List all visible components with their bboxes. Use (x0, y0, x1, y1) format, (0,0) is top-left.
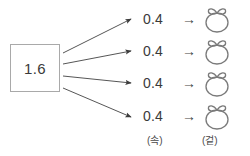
right-arrow-icon: → (177, 109, 201, 123)
caption-inner: (속) (147, 132, 163, 147)
part-row: 0.4 → (143, 3, 243, 35)
tangerine-icon (201, 4, 233, 34)
caption-outer: (겉) (202, 132, 218, 147)
distribution-arrow-2 (63, 51, 131, 64)
part-row: 0.4 → (143, 35, 243, 67)
part-value: 0.4 (143, 108, 177, 124)
source-quantity-value: 1.6 (24, 60, 46, 77)
distribution-arrow-3 (63, 76, 131, 83)
part-value: 0.4 (143, 75, 177, 91)
part-row: 0.4 → (143, 67, 243, 99)
distribution-arrow-4 (63, 88, 131, 117)
right-arrow-icon: → (177, 44, 201, 58)
part-value: 0.4 (143, 43, 177, 59)
right-arrow-icon: → (177, 76, 201, 90)
right-arrow-icon: → (177, 12, 201, 26)
tangerine-icon (201, 68, 233, 98)
distribution-arrow-1 (63, 19, 131, 53)
part-row: 0.4 → (143, 100, 243, 132)
tangerine-icon (201, 101, 233, 131)
part-value: 0.4 (143, 11, 177, 27)
tangerine-icon (201, 36, 233, 66)
source-quantity-box: 1.6 (10, 44, 60, 92)
fraction-partition-diagram: 1.6 0.4 → 0.4 → 0.4 → (0, 0, 250, 156)
